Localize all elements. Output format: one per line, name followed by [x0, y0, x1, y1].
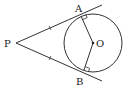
tangent-line-pb — [16, 43, 102, 81]
label-a: A — [74, 3, 83, 14]
radius-ob — [84, 43, 93, 70]
label-p: P — [4, 38, 11, 49]
radius-oa — [81, 16, 93, 43]
diagram-canvas: P A B O — [0, 0, 132, 91]
label-b: B — [76, 76, 83, 87]
tangent-diagram: P A B O — [0, 0, 132, 91]
tangent-line-pa — [16, 5, 102, 43]
label-o: O — [96, 38, 104, 49]
center-point-o — [92, 42, 95, 45]
